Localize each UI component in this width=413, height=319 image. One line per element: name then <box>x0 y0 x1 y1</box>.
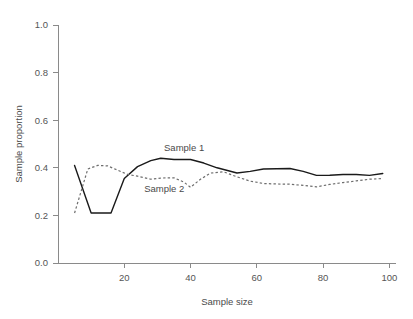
y-tick-label: 0.0 <box>35 257 48 268</box>
x-axis-ticks: 20406080100 <box>119 263 397 283</box>
annotation-sample-1: Sample 1 <box>164 142 204 153</box>
y-tick-label: 1.0 <box>35 19 48 30</box>
series-line-sample-1 <box>75 158 383 213</box>
x-tick-label: 20 <box>119 272 130 283</box>
axes <box>58 25 396 263</box>
x-tick-label: 80 <box>318 272 329 283</box>
chart-container: 0.00.20.40.60.81.0 20406080100 Sample si… <box>0 0 413 319</box>
annotation-sample-2: Sample 2 <box>144 183 184 194</box>
series-annotations: Sample 1Sample 2 <box>144 142 204 193</box>
x-axis-title: Sample size <box>201 296 253 307</box>
y-tick-label: 0.2 <box>35 210 48 221</box>
x-tick-label: 60 <box>252 272 263 283</box>
y-tick-label: 0.8 <box>35 67 48 78</box>
data-series <box>75 158 383 213</box>
x-tick-label: 40 <box>185 272 196 283</box>
x-tick-label: 100 <box>381 272 397 283</box>
y-axis-ticks: 0.00.20.40.60.81.0 <box>35 19 58 268</box>
y-axis-title: Sample proportion <box>13 105 24 183</box>
y-tick-label: 0.6 <box>35 115 48 126</box>
y-tick-label: 0.4 <box>35 162 48 173</box>
line-chart: 0.00.20.40.60.81.0 20406080100 Sample si… <box>0 0 413 319</box>
